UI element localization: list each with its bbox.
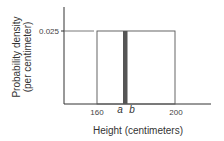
label-b: b [129, 104, 135, 115]
uniform-density-rect [97, 31, 175, 104]
label-a: a [117, 104, 123, 115]
y-axis-label-line1: Probability density [11, 16, 22, 97]
x-tick-label-200: 200 [169, 108, 183, 117]
shaded-interval-ab [123, 31, 128, 104]
x-tick-label-160: 160 [90, 108, 104, 117]
y-axis-label-line2: (per centimeter) [22, 22, 33, 93]
chart: 0.025 160 200 a b Height (centimeters) P… [0, 0, 224, 141]
x-axis-label: Height (centimeters) [93, 125, 183, 136]
y-tick-label: 0.025 [39, 27, 60, 36]
